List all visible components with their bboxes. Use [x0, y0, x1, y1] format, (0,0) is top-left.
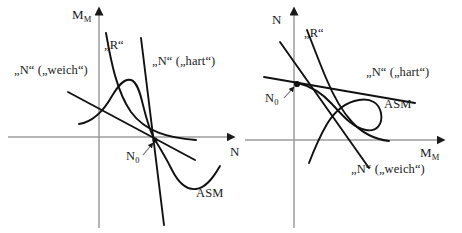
operating-point-marker: [294, 81, 300, 87]
operating-point-leader: [143, 143, 153, 155]
axis-group: [245, 14, 438, 228]
operating-point-label: N0: [265, 92, 279, 105]
figure-root: MM N „R“ „N“ („hart“) „N“ („weich“) ASM …: [0, 0, 462, 233]
operating-point-leader: [284, 87, 294, 98]
diagram-right: N MM „R“ „N“ („hart“) „N“ („weich“) ASM …: [240, 0, 462, 233]
curve-resistance: [307, 30, 389, 141]
x-axis-label: MM: [420, 146, 439, 159]
curve-label-load-hard: „N“ („hart“): [152, 55, 215, 68]
curve-label-load-hard: „N“ („hart“): [366, 66, 429, 79]
curve-label-load-soft: „N“ („weich“): [14, 64, 88, 77]
y-axis-label: MM: [72, 8, 91, 21]
diagram-right-canvas: [240, 0, 462, 233]
curve-label-resistance: „R“: [304, 27, 324, 40]
curve-label-resistance: „R“: [104, 39, 124, 52]
operating-point-label: N0: [126, 150, 140, 163]
curve-label-load-soft: „N“ („weich“): [351, 163, 425, 176]
curve-asm: [79, 80, 220, 189]
x-axis-label: N: [230, 145, 240, 158]
curve-label-asm: ASM: [384, 98, 411, 111]
operating-point-marker: [152, 137, 157, 142]
diagram-left: MM N „R“ „N“ („hart“) „N“ („weich“) ASM …: [0, 0, 240, 233]
curve-label-asm: ASM: [196, 187, 223, 200]
y-axis-label: N: [272, 13, 282, 26]
